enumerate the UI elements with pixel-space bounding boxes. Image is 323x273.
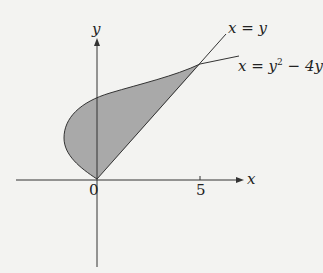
line-label: x = y: [228, 21, 267, 36]
x-axis-label: x: [247, 172, 255, 187]
origin-label: 0: [89, 183, 99, 198]
parabola-label-prefix: x = y: [238, 57, 277, 75]
y-axis-arrow-icon: [94, 38, 100, 46]
parabola-label-suffix: − 4y: [283, 57, 323, 75]
diagram-graphic: [0, 0, 323, 273]
x-tick-label-5: 5: [196, 183, 206, 198]
y-axis-label: y: [92, 22, 100, 37]
x-axis-arrow-icon: [236, 177, 244, 183]
region-diagram: y x 0 5 x = y x = y2 − 4y: [0, 0, 323, 273]
parabola-label: x = y2 − 4y: [238, 58, 323, 74]
shaded-region: [64, 64, 200, 179]
